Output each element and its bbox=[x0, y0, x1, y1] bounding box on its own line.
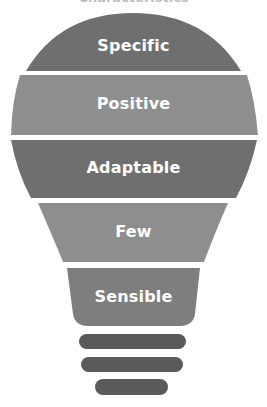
lightbulb-diagram bbox=[0, 0, 267, 407]
layer-label-adaptable: Adaptable bbox=[0, 158, 267, 178]
layer-label-positive: Positive bbox=[0, 94, 267, 114]
base-bar-3 bbox=[95, 379, 168, 395]
layer-label-specific: Specific bbox=[0, 36, 267, 56]
base-bar-1 bbox=[79, 334, 186, 349]
base-bar-2 bbox=[81, 357, 183, 372]
layer-label-sensible: Sensible bbox=[0, 287, 267, 307]
layer-label-few: Few bbox=[0, 222, 267, 242]
